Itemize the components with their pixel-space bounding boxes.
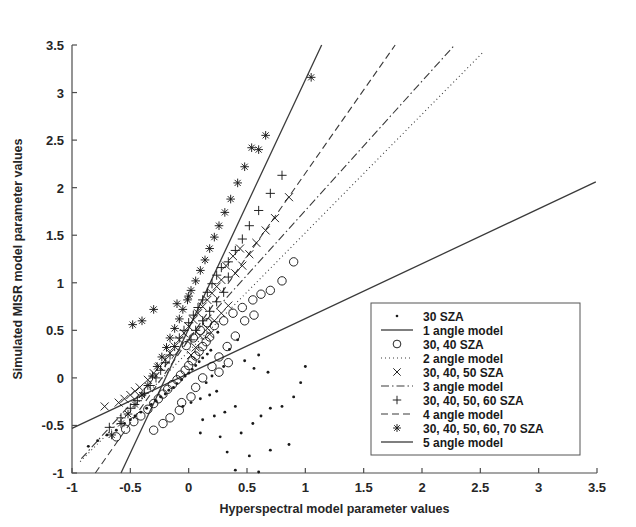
data-point xyxy=(196,266,205,275)
figure-container: -1-0.500.511.522.533.5-1-0.500.511.522.5… xyxy=(0,0,636,527)
data-point xyxy=(199,397,202,400)
data-point xyxy=(219,288,228,297)
data-point xyxy=(149,426,157,434)
data-point xyxy=(240,317,248,325)
legend-label: 3 angle model xyxy=(423,380,503,394)
data-point xyxy=(238,303,246,311)
data-point xyxy=(201,418,204,421)
data-point xyxy=(193,303,202,312)
data-point xyxy=(249,296,257,304)
y-tick-label: 1.5 xyxy=(46,228,64,243)
data-point xyxy=(234,469,237,472)
data-point xyxy=(126,391,134,399)
data-point xyxy=(148,372,157,381)
data-point xyxy=(281,405,284,408)
data-point xyxy=(201,356,204,359)
data-point xyxy=(198,374,206,382)
data-point xyxy=(243,359,246,362)
data-point xyxy=(124,410,133,419)
data-point xyxy=(198,360,201,363)
data-point xyxy=(175,315,184,324)
data-point xyxy=(250,311,258,319)
data-point xyxy=(271,214,279,222)
data-point xyxy=(219,317,227,325)
data-point xyxy=(177,398,185,406)
data-point xyxy=(201,256,210,265)
data-point xyxy=(179,326,188,335)
x-tick-label: -1 xyxy=(66,480,78,495)
data-point xyxy=(199,432,202,435)
x-tick-label: 2.5 xyxy=(471,480,489,495)
legend: 30 SZA1 angle model30, 40 SZA2 angle mod… xyxy=(371,303,580,455)
y-tick-label: 1 xyxy=(57,276,64,291)
data-point xyxy=(266,189,275,198)
data-point xyxy=(131,387,139,395)
x-axis-title: Hyperspectral model parameter values xyxy=(220,502,450,516)
legend-label: 5 angle model xyxy=(423,436,503,450)
data-point xyxy=(187,351,195,359)
y-tick-label: 2.5 xyxy=(46,133,64,148)
legend-label: 4 angle model xyxy=(423,408,503,422)
data-point xyxy=(248,454,251,457)
data-point xyxy=(158,353,167,362)
data-point xyxy=(277,171,286,180)
data-point xyxy=(134,414,137,417)
data-point xyxy=(252,239,260,247)
legend-label: 30, 40, 50, 60 SZA xyxy=(423,394,524,408)
legend-marker-asterisk xyxy=(393,424,401,432)
data-point xyxy=(288,443,291,446)
scatter-plot-svg: -1-0.500.511.522.533.5-1-0.500.511.522.5… xyxy=(0,0,636,527)
legend-label: 30 SZA xyxy=(423,310,464,324)
data-point xyxy=(87,445,90,448)
y-tick-label: 0 xyxy=(57,371,64,386)
data-point xyxy=(257,290,265,298)
x-tick-label: 0.5 xyxy=(238,480,256,495)
legend-label: 1 angle model xyxy=(423,324,503,338)
data-point xyxy=(153,362,162,371)
data-point xyxy=(121,395,129,403)
data-point xyxy=(224,302,232,310)
data-point xyxy=(96,439,99,442)
data-point xyxy=(131,400,140,409)
data-point xyxy=(173,299,182,308)
x-tick-label: 2 xyxy=(418,480,425,495)
legend-label: 30, 40, 50, 60, 70 SZA xyxy=(423,422,544,436)
legend-label: 30, 40 SZA xyxy=(423,338,484,352)
y-tick-label: 3.5 xyxy=(46,38,64,53)
x-tick-label: 3.5 xyxy=(588,480,606,495)
data-point xyxy=(233,179,242,188)
data-point xyxy=(247,143,256,152)
series-30-40-50-sza xyxy=(101,193,293,410)
model-line-4-angle-model xyxy=(95,45,395,473)
data-point xyxy=(159,419,167,427)
data-point xyxy=(215,390,218,393)
data-point xyxy=(215,221,224,230)
data-point xyxy=(245,221,254,230)
data-point xyxy=(166,334,175,343)
data-point xyxy=(215,353,223,361)
model-line-1-angle-model xyxy=(121,45,322,473)
data-point xyxy=(226,195,235,204)
data-point xyxy=(224,358,232,366)
data-point xyxy=(229,309,237,317)
data-point xyxy=(269,407,272,410)
y-tick-label: 2 xyxy=(57,181,64,196)
data-point xyxy=(236,245,244,253)
data-point xyxy=(262,226,270,234)
data-point xyxy=(292,395,295,398)
data-point xyxy=(240,162,249,171)
legend-label: 2 angle model xyxy=(423,352,503,366)
data-point xyxy=(257,354,260,357)
data-point xyxy=(144,381,153,390)
y-tick-label: 3 xyxy=(57,86,64,101)
data-point xyxy=(208,394,211,397)
data-point xyxy=(307,73,316,82)
series-30-40-sza xyxy=(112,258,298,441)
data-point xyxy=(101,402,109,410)
data-point xyxy=(231,332,239,340)
data-point xyxy=(208,289,216,297)
data-point xyxy=(216,331,219,334)
data-point xyxy=(304,365,307,368)
data-point xyxy=(163,385,171,393)
data-point xyxy=(166,414,174,422)
